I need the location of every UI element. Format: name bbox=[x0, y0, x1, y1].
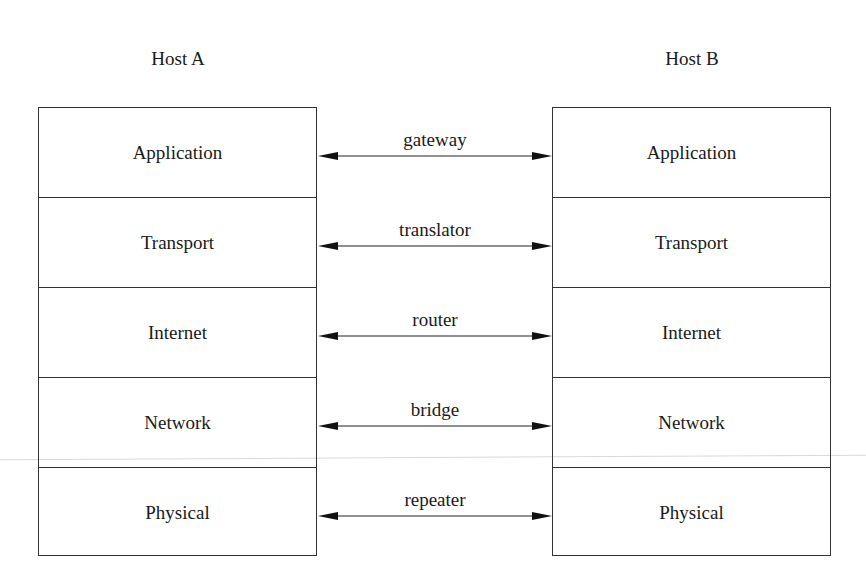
host-a-layer-physical: Physical bbox=[39, 468, 316, 558]
link-translator: translator bbox=[318, 219, 552, 259]
host-a-layer-internet: Internet bbox=[39, 288, 316, 378]
host-a-layer-application: Application bbox=[39, 108, 316, 198]
host-a-stack: Application Transport Internet Network P… bbox=[38, 107, 317, 556]
double-arrow-icon bbox=[318, 511, 552, 521]
link-label-gateway: gateway bbox=[318, 129, 552, 151]
link-label-router: router bbox=[318, 309, 552, 331]
host-a-layer-transport: Transport bbox=[39, 198, 316, 288]
link-repeater: repeater bbox=[318, 489, 552, 529]
host-b-stack: Application Transport Internet Network P… bbox=[552, 107, 831, 556]
host-a-title: Host A bbox=[38, 48, 318, 70]
link-label-repeater: repeater bbox=[318, 489, 552, 511]
host-b-layer-network: Network bbox=[553, 378, 830, 468]
double-arrow-icon bbox=[318, 421, 552, 431]
host-b-layer-transport: Transport bbox=[553, 198, 830, 288]
link-label-translator: translator bbox=[318, 219, 552, 241]
host-b-layer-application: Application bbox=[553, 108, 830, 198]
host-b-layer-physical: Physical bbox=[553, 468, 830, 558]
link-router: router bbox=[318, 309, 552, 349]
double-arrow-icon bbox=[318, 151, 552, 161]
host-b-title: Host B bbox=[552, 48, 832, 70]
double-arrow-icon bbox=[318, 331, 552, 341]
link-gateway: gateway bbox=[318, 129, 552, 169]
host-a-layer-network: Network bbox=[39, 378, 316, 468]
double-arrow-icon bbox=[318, 241, 552, 251]
link-bridge: bridge bbox=[318, 399, 552, 439]
host-b-layer-internet: Internet bbox=[553, 288, 830, 378]
link-label-bridge: bridge bbox=[318, 399, 552, 421]
